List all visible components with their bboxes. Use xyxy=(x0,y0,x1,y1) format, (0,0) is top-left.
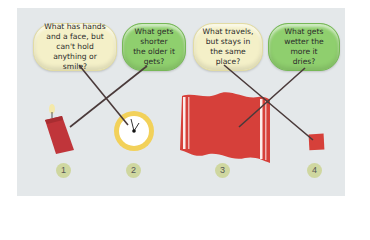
towel-icon[interactable] xyxy=(180,92,270,163)
number-badge-4: 4 xyxy=(307,163,322,178)
candle-icon[interactable] xyxy=(45,104,74,154)
number-badge-1: 1 xyxy=(56,163,71,178)
number-badge-2: 2 xyxy=(126,163,141,178)
stamp-icon[interactable] xyxy=(309,134,325,151)
number-badge-3: 3 xyxy=(215,163,230,178)
clock-icon[interactable] xyxy=(114,111,154,151)
answer-line-1 xyxy=(79,65,128,125)
